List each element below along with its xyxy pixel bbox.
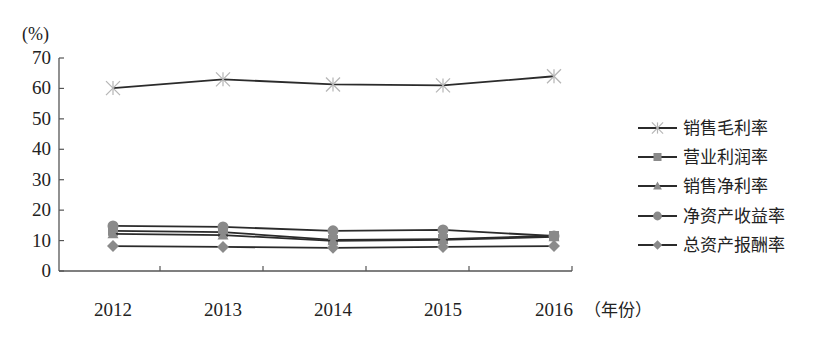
legend: 销售毛利率营业利润率销售净利率净资产收益率总资产报酬率: [638, 118, 785, 255]
legend-label: 净资产收益率: [683, 206, 785, 226]
legend-item: 销售毛利率: [638, 118, 768, 138]
legend-item: 净资产收益率: [638, 206, 785, 226]
x-tick-label: 2013: [204, 299, 242, 320]
line-chart: (%) 010203040506070 20122013201420152016…: [0, 0, 826, 343]
legend-item: 营业利润率: [638, 147, 768, 167]
diamond-marker-icon: [217, 241, 229, 253]
circle-marker-icon: [653, 212, 662, 221]
x-axis-unit-label: （年份）: [584, 300, 652, 320]
y-tick-label: 0: [42, 260, 52, 281]
y-tick-label: 60: [32, 77, 51, 98]
diamond-marker-icon: [653, 240, 663, 250]
circle-marker-icon: [549, 231, 560, 242]
x-tick-label: 2012: [94, 299, 132, 320]
legend-label: 销售净利率: [683, 176, 768, 196]
x-tick-label: 2016: [535, 299, 573, 320]
circle-marker-icon: [328, 225, 339, 236]
y-tick-label: 40: [32, 138, 51, 159]
diamond-marker-icon: [548, 240, 560, 252]
x-tick-label: 2015: [424, 299, 462, 320]
y-tick-label: 70: [32, 47, 51, 68]
y-tick-label: 30: [32, 169, 51, 190]
legend-item: 销售净利率: [638, 176, 768, 196]
legend-label: 销售毛利率: [683, 118, 768, 138]
diamond-marker-icon: [107, 240, 119, 252]
y-tick-label: 20: [32, 199, 51, 220]
y-axis: 010203040506070: [32, 47, 64, 281]
circle-marker-icon: [218, 221, 229, 232]
x-tick-label: 2014: [314, 299, 353, 320]
y-tick-label: 10: [32, 230, 51, 251]
circle-marker-icon: [438, 224, 449, 235]
square-marker-icon: [654, 153, 662, 161]
circle-marker-icon: [108, 220, 119, 231]
y-axis-unit-label: (%): [22, 24, 49, 45]
legend-label: 总资产报酬率: [683, 235, 785, 255]
series-line: [106, 69, 561, 95]
legend-item: 总资产报酬率: [638, 235, 785, 255]
x-axis: 20122013201420152016（年份）: [59, 266, 652, 320]
legend-label: 营业利润率: [683, 147, 768, 167]
y-tick-label: 50: [32, 108, 51, 129]
series-layer: [106, 69, 561, 254]
